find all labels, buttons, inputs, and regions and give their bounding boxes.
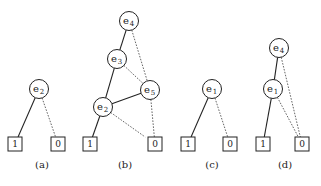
- caption-b: (b): [118, 159, 132, 170]
- high-edge-e5-e2: [112, 93, 141, 104]
- node-subscript: 2: [104, 106, 108, 114]
- terminal-0-panel-1: 0: [148, 137, 162, 151]
- terminal-label: 0: [152, 139, 158, 149]
- high-edge-e1-t1: [191, 98, 208, 137]
- caption-d: (d): [278, 159, 292, 170]
- caption-c: (c): [205, 159, 219, 170]
- low-edge-e4-e5: [132, 30, 147, 81]
- low-edge-e5-t0: [151, 99, 154, 137]
- node-label: e: [33, 83, 39, 94]
- node-label: e: [123, 15, 129, 26]
- high-edge-e1-t1: [264, 98, 271, 137]
- node-label: e: [144, 84, 150, 95]
- high-edge-e2-t1: [18, 98, 35, 137]
- low-edge-e1-t0: [215, 98, 228, 137]
- high-edge-e4-e1: [274, 57, 277, 79]
- low-edge-e2-t0: [111, 113, 145, 137]
- captions-layer: (a) (b) (c) (d): [35, 159, 292, 170]
- terminal-label: 1: [260, 139, 266, 149]
- terminal-label: 1: [12, 139, 18, 149]
- node-subscript: 1: [213, 88, 217, 96]
- high-edge-e4-e3: [120, 30, 126, 50]
- node-subscript: 1: [274, 88, 278, 96]
- low-edge-e3-e5: [124, 66, 143, 84]
- decision-diagram-figure: e210e4e3e5e210e110e4e110 (a) (b) (c) (d): [0, 0, 321, 186]
- node-label: e: [267, 83, 273, 94]
- node-e1-panel-2: e1: [203, 80, 222, 99]
- node-label: e: [97, 101, 103, 112]
- high-edge-e2-t1: [92, 116, 99, 137]
- node-e3-panel-1: e3: [108, 50, 127, 69]
- terminal-label: 1: [185, 139, 191, 149]
- terminal-1-panel-1: 1: [83, 137, 97, 151]
- node-e5-panel-1: e5: [141, 81, 160, 100]
- node-subscript: 5: [151, 89, 155, 97]
- terminal-0-panel-2: 0: [223, 137, 237, 151]
- terminal-label: 0: [55, 139, 61, 149]
- node-e4-panel-3: e4: [270, 39, 289, 58]
- high-edge-e3-e2: [106, 68, 115, 98]
- node-e2-panel-0: e2: [30, 80, 49, 99]
- terminal-1-panel-2: 1: [181, 137, 195, 151]
- terminal-0-panel-0: 0: [51, 137, 65, 151]
- terminal-label: 0: [299, 139, 305, 149]
- node-e4-panel-1: e4: [120, 12, 139, 31]
- terminal-label: 1: [87, 139, 93, 149]
- node-label: e: [111, 53, 117, 64]
- node-label: e: [273, 42, 279, 53]
- node-subscript: 4: [130, 20, 135, 28]
- terminal-0-panel-3: 0: [295, 137, 309, 151]
- terminal-1-panel-3: 1: [256, 137, 270, 151]
- node-subscript: 2: [40, 88, 44, 96]
- node-e1-panel-3: e1: [264, 80, 283, 99]
- node-subscript: 4: [280, 47, 285, 55]
- terminal-1-panel-0: 1: [8, 137, 22, 151]
- low-edge-e4-t0: [281, 57, 300, 137]
- node-subscript: 3: [118, 58, 122, 66]
- node-e2-panel-1: e2: [94, 98, 113, 117]
- node-label: e: [206, 83, 212, 94]
- caption-a: (a): [35, 159, 49, 170]
- low-edge-e2-t0: [42, 98, 55, 137]
- terminal-label: 0: [227, 139, 233, 149]
- edges-layer: [18, 30, 300, 137]
